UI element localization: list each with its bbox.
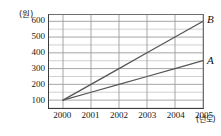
y-tick-label: 100: [32, 96, 46, 105]
x-tick-label: 2001: [82, 111, 100, 120]
grid-and-series: [49, 15, 203, 108]
x-tick-label: 2002: [110, 111, 128, 120]
x-axis-unit-label: (년도): [196, 113, 215, 124]
series-label-a: A: [207, 55, 214, 66]
plot-area: [48, 14, 204, 109]
y-tick-label: 600: [32, 16, 46, 25]
y-tick-label: 300: [32, 64, 46, 73]
y-tick-label: 500: [32, 32, 46, 41]
y-tick-label: 400: [32, 48, 46, 57]
x-tick-label: 2000: [53, 111, 71, 120]
x-axis-tick-labels: 2000 2001 2002 2003 2004 2005: [0, 111, 221, 127]
x-tick-label: 2003: [138, 111, 156, 120]
y-tick-label: 200: [32, 80, 46, 89]
chart-screenshot: (원) 100 200 300 400 500 600 2000 2001 20…: [0, 0, 221, 136]
x-tick-label: 2004: [167, 111, 185, 120]
series-label-b: B: [207, 14, 214, 25]
